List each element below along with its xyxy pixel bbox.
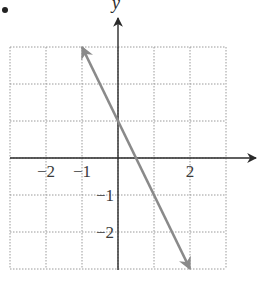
x-tick-label: −1 — [73, 162, 91, 181]
bullet-marker — [2, 7, 8, 13]
y-tick-label: −2 — [96, 223, 114, 242]
x-tick-label: 2 — [186, 162, 195, 181]
x-tick-labels: −2−12 — [37, 162, 194, 181]
coordinate-plane: y −2−12 −1−2 — [0, 0, 263, 282]
y-tick-label: −1 — [96, 186, 114, 205]
y-axis-label: y — [110, 0, 120, 13]
y-tick-labels: −1−2 — [96, 186, 114, 242]
x-tick-label: −2 — [37, 162, 55, 181]
